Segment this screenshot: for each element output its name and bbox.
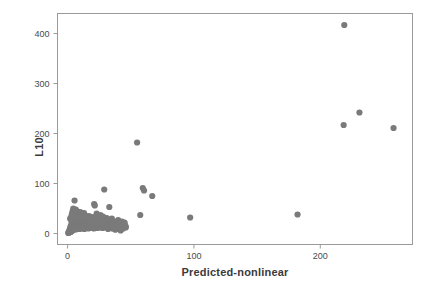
data-point <box>294 211 300 217</box>
x-tick-label: 100 <box>186 251 201 261</box>
plot-area: 01002000100200300400 <box>0 0 424 294</box>
x-tick-label: 0 <box>65 251 70 261</box>
data-point <box>118 227 124 233</box>
data-point <box>106 204 112 210</box>
data-point <box>341 22 347 28</box>
data-point <box>137 212 143 218</box>
y-tick-label: 300 <box>34 79 49 89</box>
data-point <box>341 122 347 128</box>
data-point <box>101 186 107 192</box>
x-tick-label: 200 <box>313 251 328 261</box>
data-point <box>123 223 129 229</box>
y-tick-label: 100 <box>34 179 49 189</box>
data-point <box>134 139 140 145</box>
data-point <box>356 109 362 115</box>
scatter-chart: L10 Predicted-nonlinear 0100200010020030… <box>0 0 424 294</box>
y-tick-label: 0 <box>44 229 49 239</box>
axis-frame <box>58 14 413 245</box>
y-tick-label: 200 <box>34 129 49 139</box>
data-point <box>71 197 77 203</box>
data-points <box>65 22 397 236</box>
data-point <box>92 202 98 208</box>
data-point <box>141 187 147 193</box>
data-point <box>187 214 193 220</box>
data-point <box>390 125 396 131</box>
data-point <box>149 193 155 199</box>
y-tick-label: 400 <box>34 29 49 39</box>
plot-frame <box>58 14 413 245</box>
